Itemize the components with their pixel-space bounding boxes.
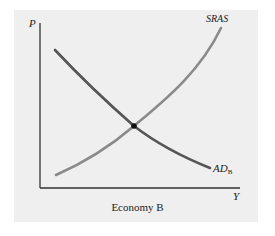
ad-label-main: AD [213, 162, 228, 174]
equilibrium-point [131, 123, 137, 129]
ad-label: ADB [213, 163, 232, 176]
ad-label-subscript: B [228, 168, 233, 176]
sras-label: SRAS [206, 14, 228, 24]
sras-curve [56, 28, 221, 175]
ad-curve [55, 50, 210, 168]
chart-caption: Economy B [0, 201, 275, 213]
y-axis-label: P [29, 18, 36, 29]
